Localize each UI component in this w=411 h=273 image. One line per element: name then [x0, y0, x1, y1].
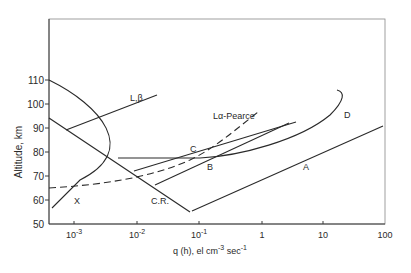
x-tick-label: 10	[318, 230, 328, 240]
x-tick-label: 100	[377, 230, 392, 240]
x-tick-label: 10-2	[129, 228, 145, 240]
y-tick-label: 50	[33, 219, 45, 230]
label-a: A	[303, 162, 309, 172]
y-tick-label: 100	[27, 99, 44, 110]
label-lalpha-pearce: Lα-Pearce	[213, 111, 255, 121]
label-d: D	[344, 110, 351, 120]
y-axis-label: Altitude, km	[13, 126, 24, 178]
curve-lalpha-pearce	[49, 112, 258, 188]
curve-c	[134, 122, 296, 171]
curve-lbeta	[66, 95, 157, 130]
label-c: C	[190, 144, 197, 154]
x-tick-label: 10-1	[191, 228, 207, 240]
x-tick-label: 10-3	[66, 228, 82, 240]
chart-svg: 110 100 90 80 70 60 50 Altitude, km 10-3…	[0, 0, 411, 273]
label-lbeta: L,β	[130, 93, 143, 103]
y-ticks: 110 100 90 80 70 60 50	[27, 75, 49, 230]
y-tick-label: 60	[33, 195, 45, 206]
y-tick-label: 90	[33, 123, 45, 134]
curve-d	[118, 90, 342, 158]
curve-x	[49, 80, 110, 208]
plot-frame	[49, 19, 385, 224]
y-tick-label: 110	[28, 75, 44, 86]
chart: 110 100 90 80 70 60 50 Altitude, km 10-3…	[0, 0, 411, 273]
label-x: X	[74, 196, 80, 206]
x-axis-label: q (h), el cm-3 sec-1	[173, 244, 247, 256]
y-tick-label: 80	[33, 147, 45, 158]
curve-b	[155, 123, 289, 185]
label-cr: C.R.	[151, 196, 169, 206]
label-b: B	[207, 162, 213, 172]
y-tick-label: 70	[33, 171, 45, 182]
x-tick-label: 1	[259, 230, 264, 240]
